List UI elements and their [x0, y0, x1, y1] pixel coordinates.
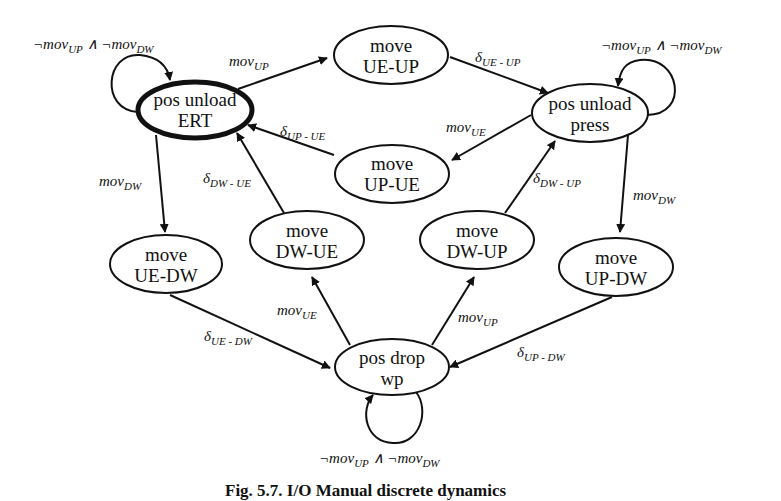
- node-label-line2: DW-UP: [446, 241, 507, 262]
- label-ue-up-to-press: δUE - UP: [475, 49, 521, 68]
- node-label-line1: move: [145, 244, 187, 265]
- node-label-line2: DW-UE: [276, 241, 338, 262]
- node-label-line1: move: [370, 35, 412, 56]
- figure-caption: Fig. 5.7. I/O Manual discrete dynamics: [225, 481, 506, 501]
- edge-drop-to-dw-ue: [312, 277, 350, 345]
- edge-press-to-up-dw: [620, 135, 628, 232]
- label-ert-to-ue-up: movUP: [229, 53, 269, 72]
- node-label-line2: UE-DW: [134, 265, 197, 286]
- edge-drop-self-loop: [366, 392, 422, 443]
- label-dw-up-to-press: δDW - UP: [533, 170, 581, 189]
- label-drop-to-dw-up: movUP: [458, 309, 498, 328]
- node-label-line2: UP-UE: [364, 174, 420, 195]
- label-press-self-loop: ¬movUP ∧ ¬movDW: [601, 37, 722, 56]
- node-label-line2: ERT: [178, 110, 213, 131]
- label-drop-to-dw-ue: movUE: [277, 302, 317, 321]
- label-up-dw-to-drop: δUP - DW: [517, 344, 566, 363]
- node-move-dw-ue[interactable]: move DW-UE: [250, 211, 364, 269]
- node-label-line1: pos unload: [154, 89, 237, 110]
- node-move-up-ue[interactable]: move UP-UE: [335, 145, 449, 203]
- label-up-ue-to-ert: δUP - UE: [280, 123, 326, 142]
- node-label-line2: wp: [380, 368, 403, 389]
- node-pos-drop-wp[interactable]: pos drop wp: [335, 339, 449, 395]
- nodes: pos unload ERT move UE-UP pos unload pre…: [110, 26, 673, 395]
- node-move-ue-dw[interactable]: move UE-DW: [110, 235, 222, 293]
- node-label-line1: pos drop: [359, 347, 425, 368]
- node-pos-unload-press[interactable]: pos unload press: [532, 84, 648, 142]
- label-ert-self-loop: ¬movUP ∧ ¬movDW: [33, 36, 154, 55]
- label-press-to-up-ue: movUE: [446, 119, 486, 138]
- node-label-line1: move: [371, 153, 413, 174]
- node-label-line2: UP-DW: [585, 268, 647, 289]
- node-move-dw-up[interactable]: move DW-UP: [420, 211, 534, 269]
- edge-ue-dw-to-drop: [170, 295, 330, 368]
- label-drop-self-loop: ¬movUP ∧ ¬movDW: [319, 450, 440, 469]
- label-press-to-up-dw: movDW: [633, 187, 676, 206]
- label-dw-ue-to-ert: δDW - UE: [203, 170, 251, 189]
- node-move-ue-up[interactable]: move UE-UP: [334, 26, 448, 84]
- node-label-line2: UE-UP: [363, 56, 419, 77]
- node-label-line1: move: [456, 220, 498, 241]
- node-label-line1: move: [286, 220, 328, 241]
- node-pos-unload-ert[interactable]: pos unload ERT: [138, 82, 252, 138]
- edge-dw-ue-to-ert: [237, 133, 284, 213]
- label-ue-dw-to-drop: δUE - DW: [204, 328, 253, 347]
- node-label-line1: pos unload: [549, 93, 632, 114]
- label-ert-to-ue-dw: movDW: [99, 173, 142, 192]
- node-label-line1: move: [595, 247, 637, 268]
- node-label-line2: press: [570, 114, 609, 135]
- edge-ert-to-ue-dw: [156, 135, 165, 232]
- node-move-up-dw[interactable]: move UP-DW: [559, 238, 673, 296]
